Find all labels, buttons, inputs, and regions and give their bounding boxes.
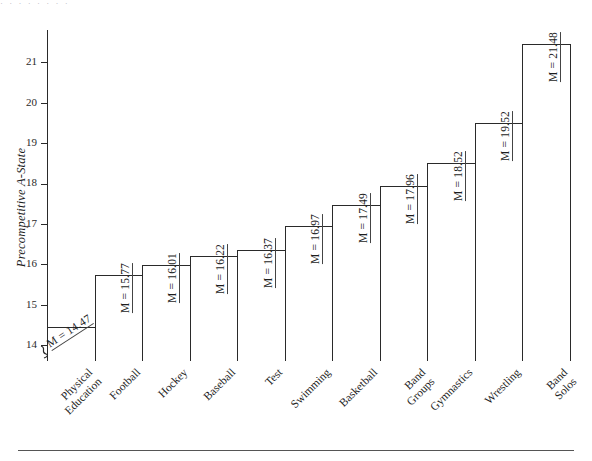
bar-value-label: M = 17.96: [404, 174, 418, 224]
bar[interactable]: M = 17.49: [332, 205, 381, 361]
bar[interactable]: M = 18.52: [427, 163, 476, 361]
x-category-label-line: Baseball: [144, 366, 238, 460]
bar-value-label: M = 21.48: [547, 32, 561, 82]
x-category-label: Swimming: [239, 366, 333, 460]
bar[interactable]: M = 17.96: [380, 186, 429, 361]
x-category-label-line: Hockey: [96, 366, 190, 460]
bar-value-label: M = 16.22: [214, 244, 228, 294]
y-tick-label: 20: [11, 96, 37, 108]
figure-bottom-rule: [18, 450, 574, 451]
bar-value-label: M = 14.47: [44, 312, 94, 351]
y-tick-label: 16: [11, 257, 37, 269]
bar-value-label: M = 19.52: [499, 111, 513, 161]
x-axis-category-labels: PhysicalEducationFootballHockeyBaseballT…: [47, 362, 570, 457]
bar-value-label: M = 17.49: [357, 193, 371, 243]
y-tick-label: 19: [11, 136, 37, 148]
x-category-label: Test: [191, 366, 285, 460]
figure-container: · · · · · · · · Precompetitive A-State 1…: [0, 0, 592, 461]
bar-series: M = 14.47M = 15.77M = 16.01M = 16.22M = …: [47, 0, 570, 361]
x-category-label: BandSolos: [477, 366, 580, 461]
y-tick-label: 17: [11, 217, 37, 229]
bar-value-label: M = 16.01: [166, 253, 180, 303]
bar-value-label: M = 15.77: [119, 262, 133, 312]
bar[interactable]: M = 16.97: [285, 226, 334, 361]
y-tick-label: 15: [11, 298, 37, 310]
bar[interactable]: M = 19.52: [475, 123, 524, 361]
bar[interactable]: M = 16.22: [190, 256, 239, 361]
y-tick-label: 18: [11, 176, 37, 188]
bar[interactable]: M = 16.37: [237, 250, 286, 361]
bar[interactable]: M = 21.48: [522, 44, 571, 361]
bar[interactable]: M = 14.47: [47, 327, 96, 361]
x-category-label-line: Test: [191, 366, 285, 460]
bar-value-label: M = 18.52: [452, 151, 466, 201]
x-category-label-line: Swimming: [239, 366, 333, 460]
x-category-label: Hockey: [96, 366, 190, 460]
y-tick-label: 14: [11, 338, 37, 350]
bar[interactable]: M = 15.77: [95, 275, 144, 361]
bar-value-label: M = 16.37: [262, 238, 276, 288]
x-category-label: Baseball: [144, 366, 238, 460]
x-category-label-line: Physical: [1, 366, 95, 460]
x-category-label-line: Band: [334, 366, 428, 460]
bar-value-label: M = 16.97: [309, 214, 323, 264]
x-category-label-line: Band: [477, 366, 571, 460]
y-tick-label: 21: [11, 55, 37, 67]
bar[interactable]: M = 16.01: [142, 265, 191, 361]
